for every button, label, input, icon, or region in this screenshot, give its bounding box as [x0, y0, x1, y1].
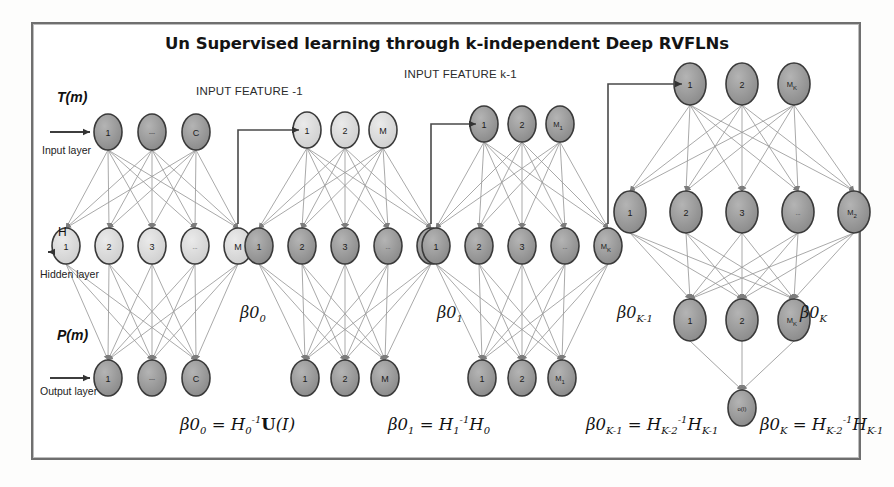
block-3-output-node-0: 1 — [674, 299, 706, 341]
edge — [345, 148, 431, 228]
edge — [562, 264, 608, 360]
block-3-input-node-1: 2 — [726, 63, 758, 105]
formula-beta0: β00 = H0-1U(I) — [180, 414, 295, 436]
svg-text:M: M — [379, 126, 387, 136]
block-3-input-node-2: MK — [778, 63, 810, 105]
edge — [109, 264, 196, 360]
svg-text:2: 2 — [476, 242, 481, 252]
edge — [108, 264, 238, 360]
edge — [479, 142, 484, 228]
svg-text:3: 3 — [149, 242, 154, 252]
block-0-output-node-1: --- — [138, 360, 166, 396]
edge — [690, 233, 742, 299]
block-0-hidden-node-1: 2 — [95, 228, 123, 264]
block-3-hidden-node-0: 1 — [614, 191, 646, 233]
edge — [436, 142, 484, 228]
block-0-hidden-node-3: ... — [181, 228, 209, 264]
edge — [195, 150, 196, 228]
block-3-final-node: o(I) — [728, 390, 756, 426]
edge — [383, 148, 388, 228]
block-1-output-node-1: 2 — [331, 360, 359, 396]
block-1-hidden-node-2: 3 — [331, 228, 359, 264]
edge — [305, 264, 388, 360]
edge — [522, 142, 608, 228]
edge — [196, 150, 238, 228]
edge — [742, 105, 794, 191]
edge — [686, 233, 794, 299]
edge — [108, 264, 195, 360]
edge — [345, 264, 431, 360]
svg-text:1: 1 — [105, 128, 110, 138]
svg-text:M: M — [381, 374, 389, 384]
block-3-hidden-node-4: M2 — [838, 191, 870, 233]
svg-text:3: 3 — [342, 242, 347, 252]
svg-text:1: 1 — [302, 374, 307, 384]
edge — [479, 142, 560, 228]
edge — [66, 150, 108, 228]
svg-text:2: 2 — [342, 126, 347, 136]
svg-text:2: 2 — [299, 242, 304, 252]
edge — [482, 264, 565, 360]
edge — [436, 142, 522, 228]
block-3-output-node-1: 2 — [726, 299, 758, 341]
edge — [630, 233, 690, 299]
edge — [690, 105, 854, 191]
edge — [479, 264, 562, 360]
block-1-input-node-2: M — [369, 112, 397, 148]
edge — [742, 341, 794, 390]
formula-beta-k-1: β0K-1 = HK-2-1HK-1 — [586, 414, 718, 436]
edge — [259, 148, 307, 228]
beta-label-k: β0K — [800, 303, 827, 324]
edge — [66, 150, 196, 228]
edge — [307, 148, 388, 228]
output-layer-label: Output layer — [40, 385, 97, 397]
svg-text:1: 1 — [433, 242, 438, 252]
svg-text:...: ... — [562, 244, 567, 250]
svg-text:2: 2 — [519, 374, 524, 384]
svg-text:2: 2 — [106, 242, 111, 252]
beta-label-1: β01 — [437, 303, 463, 324]
svg-text:1: 1 — [687, 80, 692, 90]
block-0-input-node-0: 1 — [94, 114, 122, 150]
svg-text:---: --- — [149, 376, 155, 382]
edge — [479, 142, 522, 228]
svg-text:2: 2 — [739, 316, 744, 326]
feed-arrow-1-2 — [431, 124, 476, 224]
edge — [259, 264, 345, 360]
block-3-hidden-node-2: 3 — [726, 191, 758, 233]
beta-label-0: β00 — [240, 303, 266, 324]
edge — [302, 148, 307, 228]
svg-text:3: 3 — [739, 208, 744, 218]
edge — [794, 233, 854, 299]
diagram-canvas: Un Supervised learning through k-indepen… — [0, 0, 894, 487]
svg-text:---: --- — [149, 130, 155, 136]
edge — [690, 105, 798, 191]
edge — [302, 148, 383, 228]
block-0-input-node-1: --- — [138, 114, 166, 150]
block-2-output-node-0: 1 — [468, 360, 496, 396]
edge — [686, 105, 794, 191]
edge — [630, 105, 742, 191]
edge — [630, 105, 794, 191]
svg-text:1: 1 — [63, 242, 68, 252]
input-feature-1-label: INPUT FEATURE -1 — [196, 85, 303, 97]
block-1-output-node-0: 1 — [291, 360, 319, 396]
edge — [690, 105, 742, 191]
beta-label-k-1: β0K-1 — [617, 303, 653, 324]
block-0-hidden-node-2: 3 — [138, 228, 166, 264]
edge — [302, 264, 385, 360]
edge — [560, 142, 608, 228]
edge — [484, 142, 565, 228]
block-1-hidden-node-1: 2 — [288, 228, 316, 264]
edge — [560, 142, 565, 228]
svg-text:2: 2 — [519, 120, 524, 130]
block-0-output-node-0: 1 — [94, 360, 122, 396]
svg-text:1: 1 — [105, 374, 110, 384]
input-layer-label: Input layer — [42, 144, 91, 156]
block-1-hidden-node-0: 1 — [245, 228, 273, 264]
node-layer: 1---C123...M1---C12M123...M112M12M1123..… — [52, 63, 870, 426]
block-0-output-node-2: C — [182, 360, 210, 396]
edge — [109, 150, 196, 228]
svg-text:2: 2 — [683, 208, 688, 218]
block-2-input-node-1: 2 — [508, 106, 536, 142]
